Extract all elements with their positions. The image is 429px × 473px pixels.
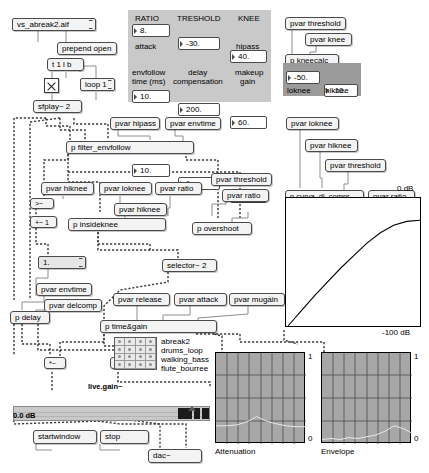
loop-message[interactable]: loop 1: [80, 78, 115, 91]
knee-label: KNEE: [238, 14, 260, 23]
pvar-threshold-kneecalc[interactable]: pvar threshold: [285, 17, 346, 30]
pvar-knee-kneecalc[interactable]: pvar knee: [305, 33, 352, 46]
pvar-attack-object[interactable]: pvar attack: [174, 293, 227, 306]
selector-object[interactable]: selector~ 2: [162, 259, 217, 272]
time-and-gain-object[interactable]: p time&gain: [100, 320, 217, 333]
kneecalc-panel: -50. -10. loknee hiknee: [283, 63, 361, 96]
one-message-label: 1.: [43, 259, 50, 267]
insideknee-object[interactable]: p insideknee: [68, 218, 166, 231]
startwindow-label: startwindow: [38, 433, 80, 441]
sfplay-object[interactable]: sfplay~ 2: [33, 100, 82, 113]
matrix-cell[interactable]: [136, 338, 146, 346]
matrix-cell[interactable]: [146, 346, 156, 354]
delcomp-label-line1: delay: [188, 68, 207, 77]
matrix-cell[interactable]: [146, 354, 156, 362]
file-message[interactable]: vs_abreak2.aif: [12, 18, 96, 31]
plus-tilde-object[interactable]: +~ 1: [30, 216, 57, 228]
delay-object[interactable]: p delay: [10, 311, 50, 324]
threshold-label: TRESHOLD: [177, 14, 221, 23]
filter-envfollow-label: p filter_envfollow: [71, 144, 131, 152]
pvar-mugain-label: pvar mugain: [234, 296, 278, 304]
envelope-tick-top: 1: [414, 352, 418, 361]
matrix-cell[interactable]: [125, 361, 135, 369]
matrix-cell[interactable]: [136, 354, 146, 362]
attack-numberbox[interactable]: 10.: [132, 90, 170, 103]
filter-envfollow-object[interactable]: p filter_envfollow: [66, 141, 194, 154]
compression-curve-graph: [285, 197, 421, 327]
delay-label: p delay: [15, 314, 41, 322]
pvar-ratio-b-object[interactable]: pvar ratio: [222, 189, 269, 202]
release-numberbox[interactable]: 200.: [178, 103, 220, 116]
overshoot-label: p overshoot: [197, 225, 239, 233]
multiply-a-label: *~: [49, 360, 56, 367]
makeup-label-line2: gain: [240, 77, 255, 86]
matrix-cell[interactable]: [115, 346, 125, 354]
plus-tilde-label: +~ 1: [35, 219, 49, 226]
envfollow-value: 10.: [140, 167, 151, 175]
one-message[interactable]: 1.: [38, 256, 86, 269]
matrix-cell[interactable]: [136, 346, 146, 354]
pvar-envtime-b-object[interactable]: pvar envtime: [36, 283, 92, 296]
hipass-value: 60.: [238, 119, 249, 127]
pvar-loknee-c-object[interactable]: pvar loknee: [286, 117, 339, 130]
matrix-cell[interactable]: [125, 346, 135, 354]
matrix-cell[interactable]: [146, 361, 156, 369]
knee-numberbox[interactable]: 40.: [230, 50, 267, 63]
pvar-hiknee-c-object[interactable]: pvar hiknee: [305, 139, 358, 152]
gain-meter-segment: [202, 408, 209, 419]
pvar-delcomp-object[interactable]: pvar delcomp: [44, 299, 102, 312]
selector-label: selector~ 2: [167, 262, 206, 270]
live-gain-title: live.gain~: [88, 382, 122, 391]
envelope-plot: [322, 353, 412, 444]
overshoot-object[interactable]: p overshoot: [192, 222, 252, 235]
pvar-release-object[interactable]: pvar release: [113, 293, 170, 306]
threshold-numberbox[interactable]: -30.: [178, 37, 220, 50]
pvar-hipass-object[interactable]: pvar hipass: [110, 117, 160, 130]
ratio-numberbox[interactable]: 8.: [132, 24, 170, 37]
pvar-hiknee-b-object[interactable]: pvar hiknee: [114, 203, 167, 216]
pvar-threshold-b-object[interactable]: pvar threshold: [211, 173, 272, 186]
pvar-threshold-c-object[interactable]: pvar threshold: [325, 159, 386, 172]
loknee-value: -50.: [294, 74, 308, 82]
pvar-hiknee-a-object[interactable]: pvar hiknee: [41, 182, 94, 195]
pvar-threshold-b-label: pvar threshold: [216, 176, 267, 184]
trigger-object[interactable]: t 1 l b: [47, 58, 84, 71]
envfollow-numberbox[interactable]: 10.: [132, 164, 170, 177]
live-gain-slider[interactable]: [13, 406, 210, 421]
compression-curve-plot: [286, 198, 422, 328]
matrix-cell[interactable]: [146, 338, 156, 346]
pvar-mugain-object[interactable]: pvar mugain: [229, 293, 285, 306]
pvar-loknee-c-label: pvar loknee: [291, 120, 332, 128]
pvar-envtime-top-object[interactable]: pvar envtime: [165, 117, 221, 130]
loop-message-label: loop 1: [85, 81, 107, 89]
startwindow-button[interactable]: startwindow: [33, 430, 97, 444]
pvar-loknee-object[interactable]: pvar loknee: [99, 182, 152, 195]
ratio-value: 8.: [140, 27, 147, 35]
loop-toggle[interactable]: [44, 78, 59, 93]
dac-label: dac~: [153, 452, 171, 460]
pvar-ratio-a-object[interactable]: pvar ratio: [155, 182, 202, 195]
attenuation-tick-top: 1: [308, 352, 312, 361]
envfollow-label-line2: time (ms): [132, 77, 165, 86]
multiply-a-object[interactable]: *~: [44, 357, 66, 369]
pvar-hiknee-a-label: pvar hiknee: [46, 185, 87, 193]
matrix-cell[interactable]: [115, 354, 125, 362]
gain-slider-handle[interactable]: [188, 406, 196, 411]
hipass-numberbox[interactable]: 60.: [230, 116, 267, 129]
prepend-open-object[interactable]: prepend open: [57, 42, 117, 55]
dac-object[interactable]: dac~: [148, 449, 202, 463]
matrix-cell[interactable]: [136, 361, 146, 369]
attenuation-scope: [215, 352, 305, 443]
greater-than-tilde-label: >~: [35, 200, 43, 207]
hiknee-label: hiknee: [325, 86, 349, 95]
greater-than-tilde-object[interactable]: >~: [30, 198, 54, 209]
matrix-cell[interactable]: [115, 338, 125, 346]
sound-select-matrix[interactable]: [114, 337, 157, 370]
matrix-cell[interactable]: [125, 338, 135, 346]
envelope-tick-bottom: 0: [414, 434, 418, 443]
loknee-numberbox[interactable]: -50.: [286, 71, 320, 84]
stop-button[interactable]: stop: [100, 430, 149, 444]
matrix-cell[interactable]: [125, 354, 135, 362]
pvar-attack-label: pvar attack: [179, 296, 218, 304]
matrix-cell[interactable]: [115, 361, 125, 369]
